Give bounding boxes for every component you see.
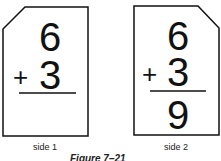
card-side-2-plus-sign: + [142,61,157,87]
card-side-2-answer: 9 [158,95,198,135]
figure-caption: Figure 7–21 [70,153,126,161]
card-side-1-plus-sign: + [13,64,28,90]
card-side-2-label: side 2 [146,142,206,152]
card-side-2-bottom-number: 3 [158,52,198,92]
card-side-1-top-number: 6 [30,17,70,57]
card-side-1-bottom-number: 3 [30,55,70,95]
card-side-1-label: side 1 [15,142,75,152]
